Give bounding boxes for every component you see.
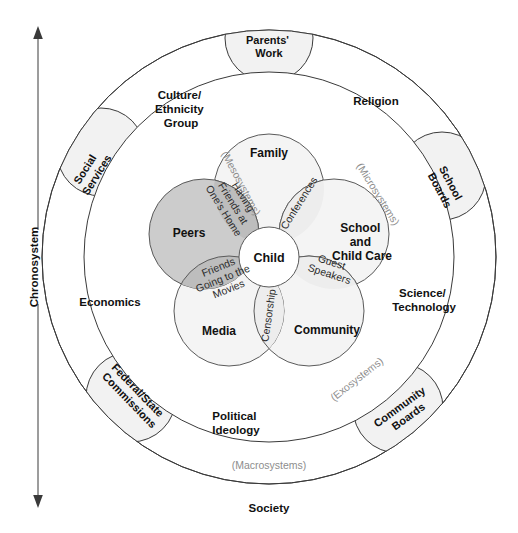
exo-label-parents-work-line-2: Work (255, 47, 283, 59)
annotation-macrosystems: (Macrosystems) (232, 459, 307, 471)
exo-label-parents-work-line-1: Parents' (246, 34, 289, 46)
macro-label-culture-line-2: Ethnicity (155, 103, 204, 115)
ecological-systems-diagram: Chronosystem Culture/ Ethnicity Group Re… (0, 0, 518, 533)
diagram-canvas: Chronosystem Culture/ Ethnicity Group Re… (0, 0, 518, 533)
macro-label-culture-line-3: Group (164, 117, 199, 129)
macro-label-science-line-2: Technology (392, 301, 456, 313)
petal-label-peers: Peers (173, 226, 206, 240)
macro-label-culture-line-1: Culture/ (158, 89, 202, 101)
petal-label-family: Family (250, 146, 288, 160)
child-label: Child (253, 251, 284, 265)
macro-label-political-line-1: Political (212, 410, 256, 422)
society-label: Society (249, 502, 291, 514)
petal-label-community: Community (294, 323, 360, 337)
petal-label-school-line-1: School (340, 221, 380, 235)
macro-label-economics: Economics (79, 296, 140, 308)
chronosystem-arrow-up-icon (33, 26, 43, 39)
macro-label-science-line-1: Science/ (399, 287, 446, 299)
petal-label-school-line-2: and (350, 235, 371, 249)
petal-label-media: Media (202, 324, 236, 338)
macro-label-religion: Religion (353, 95, 398, 107)
macro-label-political-line-2: Ideology (212, 424, 260, 436)
chronosystem-label: Chronosystem (28, 227, 40, 308)
chronosystem-arrow-down-icon (33, 495, 43, 508)
